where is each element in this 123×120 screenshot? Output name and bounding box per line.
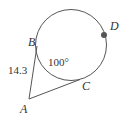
circle	[36, 10, 107, 81]
segment-ab	[29, 46, 37, 99]
point-d-dot	[101, 32, 107, 38]
label-d: D	[109, 19, 119, 33]
label-c: C	[82, 79, 91, 93]
segment-ac	[29, 80, 80, 100]
tangent-circle-diagram: B D C A 14.3 100°	[0, 0, 123, 120]
arc-measure-bc: 100°	[48, 56, 69, 68]
label-b: B	[28, 35, 36, 49]
label-a: A	[19, 102, 28, 116]
length-ab: 14.3	[8, 64, 28, 76]
